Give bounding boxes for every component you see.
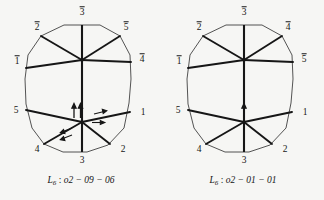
vertex-label-bottom: 3 — [242, 156, 247, 166]
lower-vertex-spokes — [26, 110, 130, 144]
upper-vertex-node — [80, 58, 83, 61]
panel-caption-right: L6 : o2 − 01 − 01 — [162, 175, 324, 187]
lower-vertex-spokes — [188, 110, 292, 144]
vertex-label-bottom: 3 — [80, 156, 85, 166]
vertex-label-right-upper: 5 — [302, 55, 307, 65]
caption-code: o2 − 09 − 06 — [64, 175, 115, 185]
arrow-right-lower — [92, 121, 105, 125]
lower-vertex-node — [242, 120, 245, 123]
arrow-up-left — [72, 104, 76, 119]
vertex-label-top-left: 2 — [197, 23, 202, 33]
panel-caption-left: L6 : o2 − 09 − 06 — [0, 175, 162, 187]
arrow-right-upper — [94, 109, 107, 114]
vertex-label-top: 3 — [80, 8, 85, 18]
vertex-label-bottom-right: 2 — [283, 145, 288, 155]
vertex-label-left-upper: 1 — [15, 57, 20, 67]
caption-code: o2 − 01 − 01 — [226, 175, 277, 185]
arrow-downleft-upper — [60, 128, 72, 134]
arrow-downleft-lower — [60, 135, 72, 141]
upper-vertex-node — [242, 58, 245, 61]
upper-vertex-spokes — [26, 36, 131, 68]
diagram-svg-right — [162, 0, 324, 200]
vertex-label-left-lower: 5 — [176, 106, 181, 116]
vertex-label-top-right: 5 — [124, 23, 129, 33]
vertex-label-left-upper: 1 — [177, 57, 182, 67]
twin-law-figure: 3 2 5 1 4 5 1 4 2 3 L6 : o2 − 09 − 06 — [0, 0, 324, 200]
diagram-panel-right: 3 2 4 1 5 5 1 4 2 3 L6 : o2 − 01 − 01 — [162, 0, 324, 200]
vertex-label-right-lower: 1 — [303, 108, 308, 118]
vertex-label-top: 3 — [242, 8, 247, 18]
caption-separator: : — [56, 175, 63, 185]
upper-vertex-spokes — [188, 36, 293, 68]
vertex-label-right-upper: 4 — [140, 55, 145, 65]
vertex-label-bottom-left: 4 — [35, 145, 40, 155]
lower-vertex-node — [80, 120, 83, 123]
vertex-label-left-lower: 5 — [14, 106, 19, 116]
diagram-svg-left — [0, 0, 162, 200]
vertex-label-bottom-right: 2 — [121, 145, 126, 155]
vertex-label-bottom-left: 4 — [197, 145, 202, 155]
diagram-panel-left: 3 2 5 1 4 5 1 4 2 3 L6 : o2 − 09 − 06 — [0, 0, 162, 200]
vertex-label-top-left: 2 — [35, 23, 40, 33]
vertex-label-top-right: 4 — [286, 23, 291, 33]
vertex-label-right-lower: 1 — [141, 108, 146, 118]
caption-separator: : — [218, 175, 225, 185]
polygon-outline — [25, 25, 131, 152]
arrow-up-center — [242, 104, 246, 119]
polygon-outline — [187, 25, 293, 152]
